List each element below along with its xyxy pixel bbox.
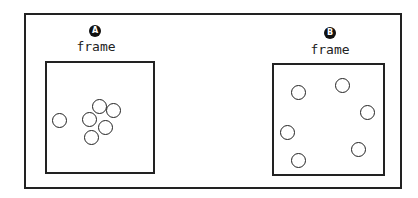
circle (351, 142, 366, 157)
circle (106, 103, 121, 118)
frame-label-a: frame (56, 39, 136, 54)
frame-label-b: frame (290, 42, 370, 57)
frame-b (272, 63, 385, 176)
circle (84, 130, 99, 145)
circle (335, 78, 350, 93)
circle (52, 113, 67, 128)
badge-a: A (89, 25, 101, 37)
circle (82, 112, 97, 127)
circle (280, 125, 295, 140)
circle (291, 85, 306, 100)
circle (360, 105, 375, 120)
circle (98, 120, 113, 135)
badge-b: B (324, 27, 336, 39)
circle (291, 153, 306, 168)
circle (92, 99, 107, 114)
